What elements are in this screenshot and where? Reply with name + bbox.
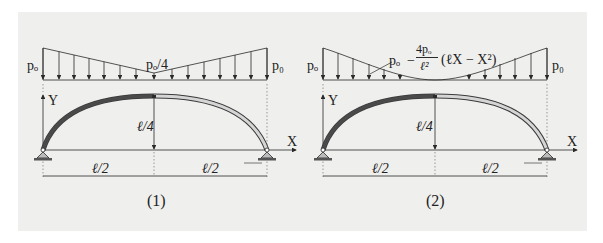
fig2-formula-p: pₒ xyxy=(389,54,400,68)
panel-background xyxy=(18,12,587,231)
fig2-y-axis-label: Y xyxy=(328,94,338,108)
diagram-canvas xyxy=(0,0,603,243)
fig2-x-axis-label: X xyxy=(567,135,577,149)
fig2-formula-fraction-bar xyxy=(416,57,438,58)
fig1-span-right-label: ℓ/2 xyxy=(202,162,219,176)
fig1-span-left-label: ℓ/2 xyxy=(92,162,109,176)
fig1-load-mid-label: pₒ/4 xyxy=(146,58,168,72)
fig1-rise-label: ℓ/4 xyxy=(137,120,154,134)
fig1-y-axis-label: Y xyxy=(48,94,58,108)
fig2-span-right-label: ℓ/2 xyxy=(482,162,499,176)
fig1-load-right-label: p₀ xyxy=(272,59,284,73)
fig2-span-left-label: ℓ/2 xyxy=(372,162,389,176)
fig2-load-right-label: p₀ xyxy=(552,59,564,73)
fig2-formula-minus: − xyxy=(407,54,415,68)
fig2-caption: (2) xyxy=(426,193,445,209)
fig2-formula-numerator: 4pₒ xyxy=(416,43,431,55)
fig1-caption: (1) xyxy=(147,193,166,209)
fig2-formula-tail: (ℓX − X²) xyxy=(441,53,496,67)
fig2-formula-denominator: ℓ² xyxy=(420,60,429,72)
fig1-x-axis-label: X xyxy=(287,135,297,149)
fig2-rise-label: ℓ/4 xyxy=(416,120,433,134)
fig1-load-left-label: pₒ xyxy=(27,59,38,73)
fig2-load-left-label: pₒ xyxy=(307,59,318,73)
